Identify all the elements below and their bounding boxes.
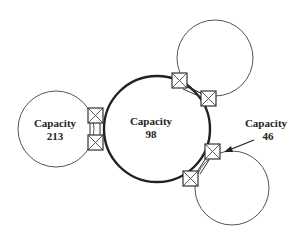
bottom-right-ring <box>195 151 269 225</box>
left-capacity-label: Capacity <box>34 117 77 129</box>
bottom-right-capacity-label: Capacity <box>245 117 288 129</box>
center-capacity-label: Capacity <box>130 115 173 127</box>
center-capacity-value: 98 <box>146 128 158 140</box>
gateway-box-left-upper <box>88 108 103 123</box>
gateway-box-top-right-lower <box>201 91 216 106</box>
center-ring <box>104 76 210 182</box>
ring-capacity-diagram: Capacity 98 Capacity 213 Capacity 46 <box>0 0 301 239</box>
gateway-box-bottom-right-lower <box>183 171 198 186</box>
gateway-box-bottom-right-upper <box>205 144 220 159</box>
gateway-box-top-right-upper <box>172 73 187 88</box>
bottom-right-capacity-value: 46 <box>263 130 275 142</box>
gateway-box-left-lower <box>88 135 103 150</box>
arrow-icon <box>224 140 254 152</box>
left-capacity-value: 213 <box>47 130 64 142</box>
left-ring <box>18 91 94 167</box>
top-right-ring <box>177 20 253 96</box>
